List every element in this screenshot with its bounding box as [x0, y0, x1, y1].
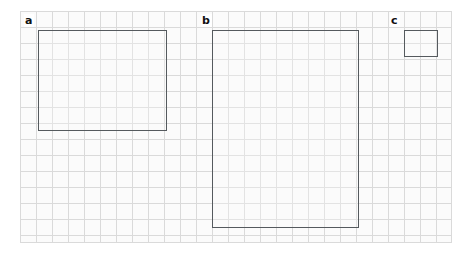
panel-rect-a	[38, 30, 167, 131]
panel-rect-b	[212, 30, 359, 228]
panel-label-a: a	[24, 14, 34, 27]
panel-label-b: b	[201, 14, 212, 27]
figure-root: a b c	[0, 0, 469, 257]
panel-label-c: c	[390, 14, 400, 27]
panel-rect-c	[404, 30, 438, 57]
